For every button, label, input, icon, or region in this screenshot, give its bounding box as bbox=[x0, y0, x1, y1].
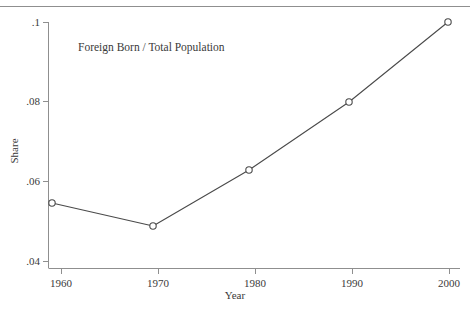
data-point-marker bbox=[49, 200, 55, 206]
x-tick-label-2: 1980 bbox=[244, 277, 266, 289]
data-point-marker bbox=[246, 167, 252, 173]
chart-annotation: Foreign Born / Total Population bbox=[78, 41, 225, 53]
x-tick-label-4: 2000 bbox=[438, 277, 460, 289]
y-tick-label-2: .08 bbox=[8, 95, 40, 107]
data-point-marker bbox=[150, 223, 156, 229]
data-point-marker bbox=[346, 99, 352, 105]
x-axis-label: Year bbox=[0, 289, 470, 301]
x-tick-label-3: 1990 bbox=[341, 277, 363, 289]
data-point-marker bbox=[445, 19, 451, 25]
chart-figure: .04 .06 .08 .1 1960 1970 1980 1990 2000 … bbox=[0, 0, 470, 309]
y-tick-label-3: .1 bbox=[8, 16, 40, 28]
y-axis-label: Share bbox=[8, 121, 20, 181]
line-chart-plot bbox=[0, 0, 470, 309]
x-tick-label-0: 1960 bbox=[50, 277, 72, 289]
y-tick-label-0: .04 bbox=[8, 255, 40, 267]
x-tick-label-1: 1970 bbox=[147, 277, 169, 289]
